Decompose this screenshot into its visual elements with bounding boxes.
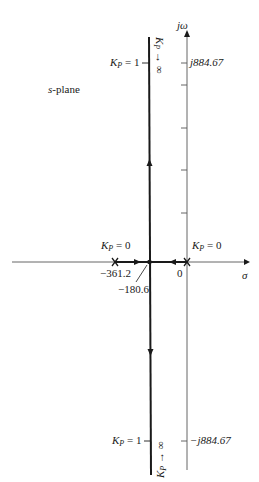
imag-axis-arrow-icon [184,30,190,37]
real-axis-label: σ [242,270,247,281]
origin-label: 0 [177,268,183,279]
locus-right-arrow-icon [134,259,141,265]
pole-origin-gain-label: KP = 0 [192,240,221,253]
upper-infinity-label: KP → ∞ [152,37,165,74]
pole-left-value: −361.2 [100,268,131,279]
upper-gain-label: KP = 1 [110,57,139,70]
locus-vertical [149,37,151,475]
pole-left-gain-label: KP = 0 [101,240,130,253]
lower-infinity-label: KP → ∞ [155,441,168,478]
plane-label: s-plane [48,84,80,95]
locus-left-arrow-icon [169,259,176,265]
imag-axis-label: jω [177,20,188,31]
locus-down-arrow-icon [148,349,154,356]
breakaway-value: −180.6 [118,284,149,295]
imag-axis-ticks [181,63,187,441]
lower-gain-label: KP = 1 [112,435,141,448]
breakaway-leader [136,265,147,282]
real-axis-arrow-icon [244,259,250,265]
upper-crossing-value: j884.67 [190,57,223,68]
breakaway-point-icon [147,260,152,265]
locus-up-arrow-icon [147,159,153,166]
lower-crossing-value: −j884.67 [190,435,231,446]
